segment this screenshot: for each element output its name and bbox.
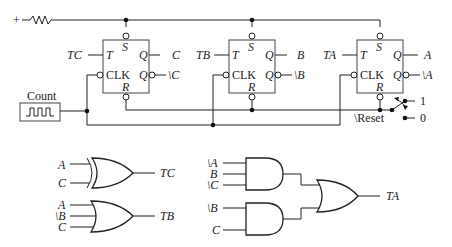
gate-output-label: TB — [160, 209, 175, 223]
qn-output-label: \C — [168, 68, 180, 82]
q-output-label: C — [172, 48, 181, 62]
xor-gate-tc: A C TC — [57, 158, 176, 190]
reset-bus — [126, 100, 392, 110]
reset-label: \Reset — [354, 111, 385, 125]
qn-output-label: \B — [294, 68, 305, 82]
logic-high-label: 1 — [420, 94, 426, 108]
supply-label: + — [13, 13, 20, 27]
pullup-resistor-icon — [30, 16, 51, 24]
junction-dot — [85, 109, 90, 114]
junction-dot — [124, 18, 129, 23]
t-input-label: TB — [196, 48, 211, 62]
set-rail — [51, 20, 380, 27]
gate-input-label: C — [58, 176, 67, 190]
reset-pin-label: R — [121, 80, 130, 94]
count-label: Count — [27, 89, 57, 103]
set-pin-label: S — [248, 40, 254, 54]
or-gate-tb: A \B C TB — [55, 198, 175, 234]
qn-pin-label: Q — [139, 68, 148, 82]
q-pin-label: Q — [265, 48, 274, 62]
t-input-label: TA — [323, 48, 337, 62]
qn-output-label: \A — [422, 68, 433, 82]
and2-to-or-wire — [283, 208, 320, 219]
count-clock-source[interactable] — [20, 103, 60, 121]
qn-pin-label: Q — [265, 68, 274, 82]
and1-to-or-wire — [283, 174, 320, 185]
and-gate-ta-1: \A B \C — [207, 156, 283, 192]
set-pin-label: S — [122, 40, 128, 54]
gate-input-label: \C — [207, 178, 219, 192]
clk-pin-label: CLK — [360, 68, 384, 82]
junction-dot — [211, 123, 216, 128]
t-input-label: TC — [67, 48, 83, 62]
reset-switch[interactable] — [390, 97, 408, 120]
junction-dot — [250, 18, 255, 23]
q-output-label: A — [423, 48, 432, 62]
clk-pin-label: CLK — [232, 68, 256, 82]
q-pin-label: Q — [139, 48, 148, 62]
counter-circuit-diagram: + S R T CLK Q Q TC C \C S R T CLK Q Q — [0, 0, 452, 247]
gate-input-label: \B — [207, 201, 218, 215]
clk-pin-label: CLK — [106, 68, 130, 82]
clock-wire-b — [213, 75, 223, 125]
gate-input-label: C — [58, 220, 67, 234]
junction-dot — [250, 108, 255, 113]
gate-output-label: TA — [386, 189, 400, 203]
gate-input-label: A — [57, 158, 66, 172]
or-gate-ta: TA — [317, 180, 400, 212]
reset-pin-label: R — [247, 80, 256, 94]
set-pin-label: S — [376, 40, 382, 54]
gate-output-label: TC — [160, 166, 176, 180]
q-pin-label: Q — [393, 48, 402, 62]
logic-low-label: 0 — [420, 111, 426, 125]
flip-flop-b: S R T CLK Q Q TB B \B — [196, 33, 305, 100]
q-output-label: B — [297, 48, 305, 62]
gate-input-label: C — [212, 223, 221, 237]
and-gate-ta-2: \B C — [207, 201, 283, 237]
reset-pin-label: R — [375, 80, 384, 94]
qn-pin-label: Q — [393, 68, 402, 82]
flip-flop-c: S R T CLK Q Q TC C \C — [67, 33, 181, 100]
